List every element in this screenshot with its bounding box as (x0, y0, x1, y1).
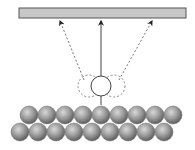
surface-atom (128, 106, 146, 124)
surface-atom (137, 123, 155, 141)
surface-atom (38, 106, 56, 124)
surface-atom (155, 123, 173, 141)
surface-atom (56, 106, 74, 124)
surface-atom (74, 106, 92, 124)
surface-atom (20, 106, 38, 124)
surface-atom (65, 123, 83, 141)
adsorbed-molecule-diagram (0, 0, 195, 150)
adsorbed-molecule (91, 76, 111, 96)
surface-atom (119, 123, 137, 141)
surface-atom (164, 106, 182, 124)
surface-atom (146, 106, 164, 124)
surface-atom (110, 106, 128, 124)
surface-atom (47, 123, 65, 141)
surface-atom (101, 123, 119, 141)
right-dashed-arrow (119, 21, 152, 80)
detector-plate (19, 8, 186, 18)
arrows-group (60, 21, 152, 80)
crystal-surface (11, 106, 182, 141)
left-dashed-arrow (60, 21, 84, 80)
surface-atom (29, 123, 47, 141)
surface-atom (92, 106, 110, 124)
surface-atom (11, 123, 29, 141)
surface-atom (83, 123, 101, 141)
